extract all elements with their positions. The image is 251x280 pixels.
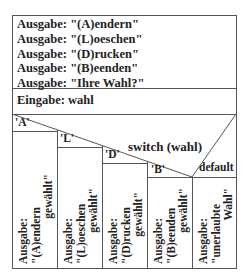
- case-text: gewählt": [132, 192, 145, 264]
- output-block: Ausgabe: "(A)endern" Ausgabe: "(L)oesche…: [17, 17, 144, 91]
- case-label-a: 'A': [15, 116, 30, 128]
- case-label-l: 'L': [60, 132, 74, 144]
- case-text: "unerlaubte: [210, 188, 223, 264]
- output-line: Ausgabe: "(B)eenden": [17, 61, 144, 76]
- case-text: Ausgabe:: [62, 188, 75, 264]
- case-text: "(D)rucken: [120, 192, 133, 264]
- case-body-d: Ausgabe: "(D)rucken gewählt": [107, 192, 145, 264]
- output-line: Ausgabe: "Ihre Wahl?": [17, 76, 144, 91]
- case-text: Ausgabe:: [107, 192, 120, 264]
- case-label-default: default: [199, 161, 234, 173]
- input-block: Eingabe: wahl: [17, 93, 94, 108]
- case-label-b: 'B': [151, 163, 165, 175]
- case-text: gewählt": [42, 174, 55, 264]
- case-text: Ausgabe:: [197, 188, 210, 264]
- output-line: Ausgabe: "(L)oeschen": [17, 32, 144, 47]
- case-body-a: Ausgabe: "(A)endern gewählt": [17, 174, 55, 264]
- switch-label: switch (wahl): [128, 139, 202, 155]
- case-body-default: Ausgabe: "unerlaubte Wahl": [197, 188, 235, 264]
- case-text: Ausgabe:: [152, 188, 165, 264]
- case-text: gewählt": [87, 188, 100, 264]
- case-text: "(B)eenden: [165, 188, 178, 264]
- case-label-d: 'D': [105, 148, 120, 160]
- case-body-l: Ausgabe: "(L)oeschen gewählt": [62, 188, 100, 264]
- case-text: "(L)oeschen: [75, 188, 88, 264]
- case-text: Ausgabe:: [17, 174, 30, 264]
- case-body-b: Ausgabe: "(B)eenden gewählt": [152, 188, 190, 264]
- output-line: Ausgabe: "(A)endern": [17, 17, 144, 32]
- output-line: Ausgabe: "(D)rucken": [17, 47, 144, 62]
- case-text: Wahl": [222, 188, 235, 264]
- case-text: "(A)endern: [30, 174, 43, 264]
- case-text: gewählt": [177, 188, 190, 264]
